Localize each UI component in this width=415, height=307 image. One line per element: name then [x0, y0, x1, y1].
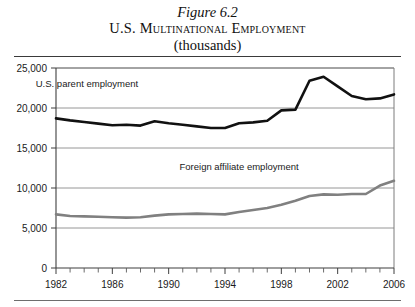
divider-bottom — [14, 300, 401, 301]
x-axis-label: 1982 — [45, 279, 68, 290]
x-axis-label: 1994 — [214, 279, 237, 290]
x-axis-label: 2006 — [383, 279, 406, 290]
y-axis-label: 5,000 — [22, 223, 47, 234]
page-title: U.S. Multinational Employment — [0, 20, 415, 37]
figure-subtitle: (thousands) — [0, 37, 415, 54]
x-axis-label: 2002 — [327, 279, 350, 290]
figure-container: Figure 6.2 U.S. Multinational Employment… — [0, 0, 415, 307]
series-line — [56, 181, 394, 218]
x-axis-label: 1990 — [158, 279, 181, 290]
chart-area: 05,00010,00015,00020,00025,0001982198619… — [0, 60, 415, 300]
y-axis-label: 15,000 — [16, 143, 47, 154]
line-chart: 05,00010,00015,00020,00025,0001982198619… — [0, 60, 415, 300]
y-axis-label: 0 — [41, 263, 47, 274]
series-annotation: Foreign affiliate employment — [179, 161, 299, 172]
x-axis-label: 1998 — [270, 279, 293, 290]
title-block: Figure 6.2 U.S. Multinational Employment… — [0, 0, 415, 54]
figure-number: Figure 6.2 — [0, 4, 415, 20]
y-axis-label: 10,000 — [16, 183, 47, 194]
divider-top — [14, 56, 401, 57]
x-axis-label: 1986 — [101, 279, 124, 290]
y-axis-label: 25,000 — [16, 63, 47, 74]
y-axis-label: 20,000 — [16, 103, 47, 114]
series-annotation: U.S. parent employment — [36, 78, 139, 89]
